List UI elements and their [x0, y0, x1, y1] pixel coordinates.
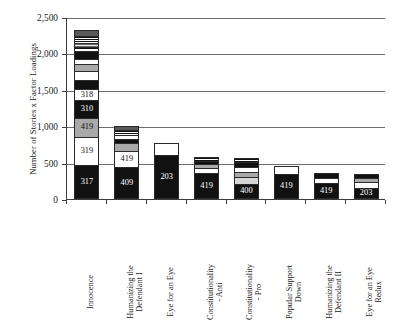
bar-0-segment-0[interactable]: 317	[75, 166, 98, 198]
x-axis-label-3: Constitutionality- Anti	[206, 249, 225, 324]
bar-4-segment-3[interactable]	[235, 168, 258, 173]
x-tick-mark	[226, 200, 227, 204]
x-axis-label-line: Popular Support	[285, 249, 294, 324]
bar-0[interactable]: 317319419310318	[74, 30, 99, 199]
x-axis-label-line: Humanizing the	[325, 249, 334, 324]
bar-0-segment-7[interactable]	[75, 65, 98, 72]
segment-value-label: 400	[240, 187, 253, 195]
x-axis-label-5: Popular SupportDown	[285, 249, 304, 324]
bar-0-segment-13[interactable]	[75, 31, 98, 37]
bar-0-segment-6[interactable]	[75, 72, 98, 81]
bar-3-segment-4[interactable]	[195, 158, 218, 162]
bar-1-segment-0[interactable]: 409	[115, 168, 138, 198]
bar-4-segment-5[interactable]	[235, 159, 258, 164]
x-tick-mark	[265, 200, 266, 204]
bar-4-segment-2[interactable]	[235, 173, 258, 178]
bar-0-segment-12[interactable]	[75, 37, 98, 43]
x-axis-label-line: - Anti	[215, 249, 224, 324]
bar-3[interactable]: 419	[194, 157, 219, 199]
x-axis-label-line: Constitutionality	[206, 249, 215, 324]
segment-value-label: 318	[81, 91, 94, 99]
bar-4-segment-4[interactable]	[235, 163, 258, 168]
gridline	[67, 18, 385, 19]
x-axis-label-6: Humanizing theDefendant II	[325, 249, 344, 324]
y-tick-mark	[62, 18, 66, 19]
segment-value-label: 419	[121, 155, 134, 163]
gridline	[67, 91, 385, 92]
x-axis-label-line: Humanizing the	[126, 249, 135, 324]
x-axis-label-7: Eye for an EyeRedux	[365, 249, 384, 324]
bar-5-segment-0[interactable]: 419	[275, 175, 298, 198]
y-tick-label: 1,000	[14, 123, 58, 132]
bar-0-segment-9[interactable]	[75, 52, 98, 60]
bar-0-segment-11[interactable]	[75, 44, 98, 48]
bar-0-segment-8[interactable]	[75, 60, 98, 65]
x-axis-label-line: Redux	[374, 249, 383, 324]
y-axis-title: Number of Stories x Factor Loadings	[28, 14, 38, 204]
x-tick-mark	[186, 200, 187, 204]
bar-2-segment-1[interactable]	[155, 144, 178, 156]
bar-6-segment-0[interactable]: 419	[315, 184, 338, 198]
x-axis-label-2: Eye for an Eye	[166, 249, 175, 324]
x-tick-mark-origin	[66, 200, 67, 204]
x-axis-label-line: Eye for an Eye	[365, 249, 374, 324]
bar-6-segment-2[interactable]	[315, 174, 338, 179]
bar-7-segment-0[interactable]: 203	[355, 189, 378, 198]
bar-1-segment-6[interactable]	[115, 127, 138, 131]
bar-0-segment-4[interactable]: 318	[75, 90, 98, 101]
bar-0-segment-1[interactable]: 319	[75, 138, 98, 166]
bar-1-segment-1[interactable]: 419	[115, 152, 138, 168]
bar-1-segment-4[interactable]	[115, 136, 138, 140]
x-tick-mark	[345, 200, 346, 204]
y-tick-mark	[62, 91, 66, 92]
bar-3-segment-2[interactable]	[195, 165, 218, 169]
x-axis-label-0: Innocence	[86, 249, 95, 324]
bar-7-segment-3[interactable]	[355, 175, 378, 179]
x-tick-mark	[305, 200, 306, 204]
bar-1[interactable]: 409419	[114, 126, 139, 199]
segment-value-label: 310	[81, 105, 94, 113]
bar-0-segment-3[interactable]: 310	[75, 101, 98, 119]
segment-value-label: 409	[121, 179, 134, 187]
y-tick-label: 1,500	[14, 86, 58, 95]
segment-value-label: 203	[160, 173, 173, 181]
bar-2[interactable]: 203	[154, 143, 179, 199]
bar-4-segment-1[interactable]	[235, 178, 258, 185]
bar-3-segment-1[interactable]	[195, 169, 218, 174]
bar-0-segment-10[interactable]	[75, 48, 98, 52]
segment-value-label: 419	[280, 182, 293, 190]
bar-6[interactable]: 419	[314, 173, 339, 199]
bar-5[interactable]: 419	[274, 166, 299, 199]
y-tick-label: 500	[14, 159, 58, 168]
bar-4-segment-0[interactable]: 400	[235, 185, 258, 198]
segment-value-label: 203	[360, 189, 373, 197]
bar-5-segment-1[interactable]	[275, 167, 298, 175]
x-axis-label-line: Defendant I	[135, 249, 144, 324]
x-axis-label-line: - Pro	[255, 249, 264, 324]
segment-value-label: 419	[200, 182, 213, 190]
bar-2-segment-0[interactable]: 203	[155, 156, 178, 198]
bar-4[interactable]: 400	[234, 158, 259, 199]
bar-1-segment-3[interactable]	[115, 140, 138, 144]
bar-1-segment-5[interactable]	[115, 131, 138, 136]
x-axis-label-line: Innocence	[86, 249, 95, 324]
segment-value-label: 419	[81, 123, 94, 131]
y-tick-mark	[62, 164, 66, 165]
bar-1-segment-2[interactable]	[115, 144, 138, 152]
bar-0-segment-5[interactable]	[75, 81, 98, 90]
bar-3-segment-0[interactable]: 419	[195, 174, 218, 198]
x-axis-label-4: Constitutionality- Pro	[245, 249, 264, 324]
x-tick-mark	[106, 200, 107, 204]
bar-6-segment-1[interactable]	[315, 179, 338, 183]
bar-0-segment-2[interactable]: 419	[75, 119, 98, 138]
bar-3-segment-3[interactable]	[195, 162, 218, 165]
segment-value-label: 317	[81, 178, 94, 186]
plot-area: 317319419310318409419203419400419419203	[66, 18, 385, 200]
gridline	[67, 54, 385, 55]
bar-7[interactable]: 203	[354, 174, 379, 199]
bar-7-segment-2[interactable]	[355, 179, 378, 182]
segment-value-label: 419	[320, 187, 333, 195]
bar-7-segment-1[interactable]	[355, 183, 378, 190]
y-tick-mark	[62, 54, 66, 55]
